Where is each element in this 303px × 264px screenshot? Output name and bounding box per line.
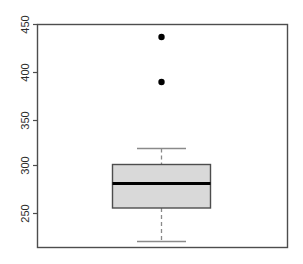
boxplot-figure: 450 400 350 300 250 xyxy=(0,0,303,264)
interquartile-box xyxy=(113,165,211,209)
y-tick-label-250: 250 xyxy=(19,204,31,222)
y-tick-label-400: 400 xyxy=(19,63,31,81)
figure-background xyxy=(0,0,303,264)
y-tick-label-350: 350 xyxy=(19,111,31,129)
y-tick-label-300: 300 xyxy=(19,156,31,174)
outlier-point xyxy=(158,79,164,85)
y-tick-label-450: 450 xyxy=(19,15,31,33)
outlier-point xyxy=(158,34,164,40)
boxplot-canvas: 450 400 350 300 250 xyxy=(0,0,303,264)
